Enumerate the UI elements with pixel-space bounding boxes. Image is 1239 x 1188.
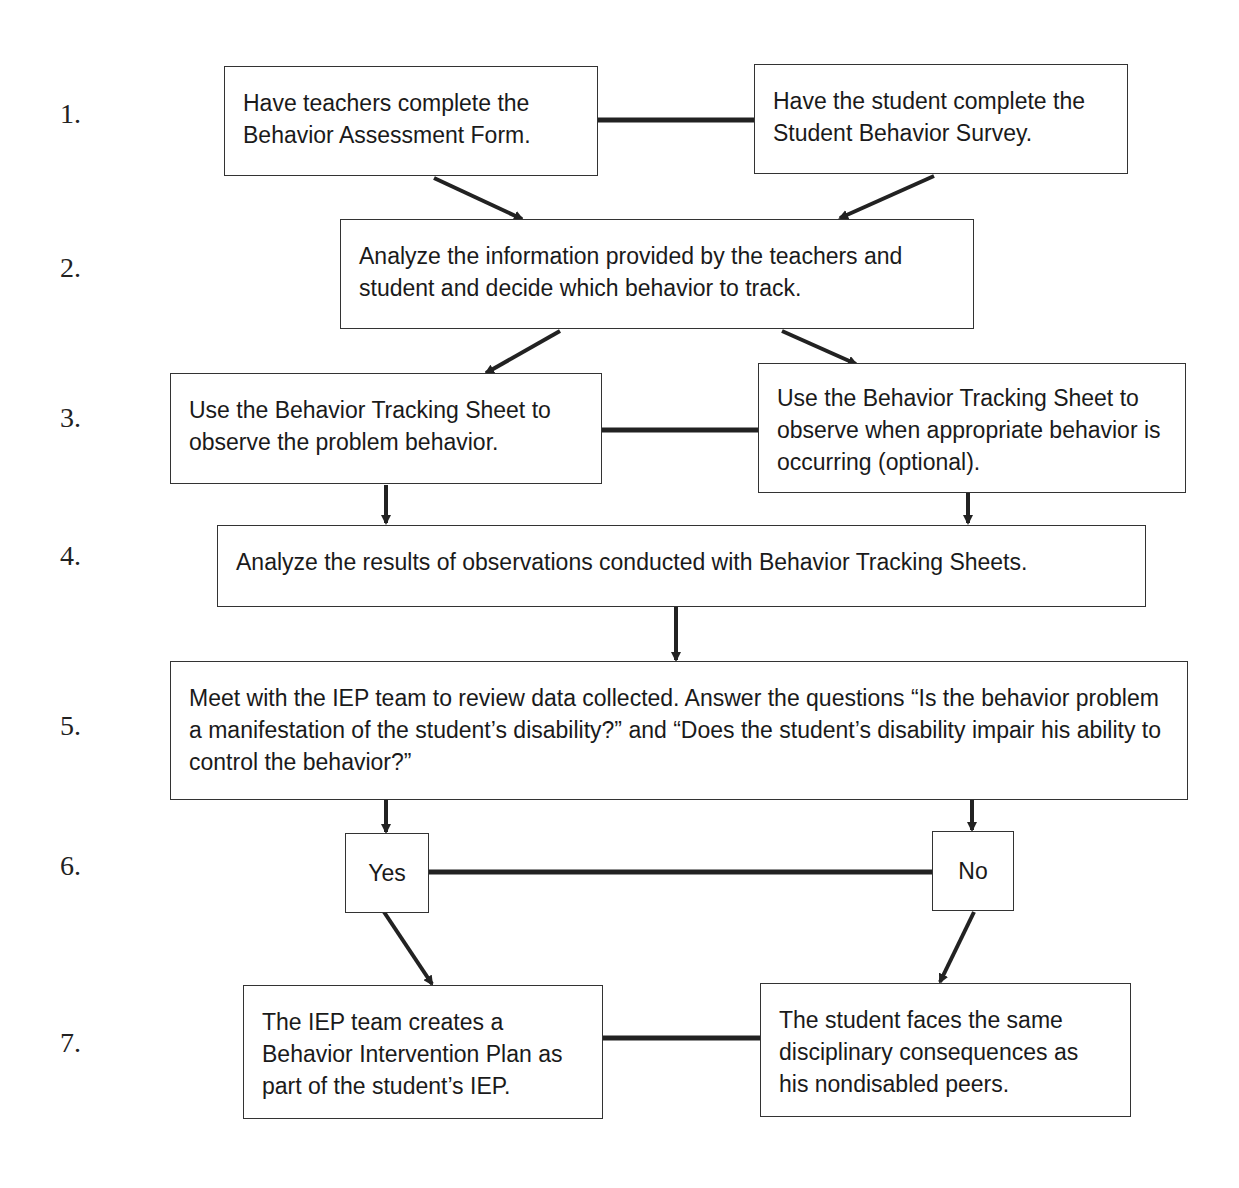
node-track-problem-behavior: Use the Behavior Tracking Sheet to obser… — [170, 373, 602, 484]
node-same-disciplinary-consequences: The student faces the same disciplinary … — [760, 983, 1131, 1117]
node-behavior-intervention-plan: The IEP team creates a Behavior Interven… — [243, 985, 603, 1119]
node-analyze-results: Analyze the results of observations cond… — [217, 525, 1146, 607]
node-iep-team-meeting: Meet with the IEP team to review data co… — [170, 661, 1188, 800]
node-teachers-assessment-form: Have teachers complete the Behavior Asse… — [224, 66, 598, 176]
node-decision-no: No — [932, 831, 1014, 911]
node-analyze-information: Analyze the information provided by the … — [340, 219, 974, 329]
node-decision-yes: Yes — [345, 833, 429, 913]
node-track-appropriate-behavior: Use the Behavior Tracking Sheet to obser… — [758, 363, 1186, 493]
node-student-behavior-survey: Have the student complete the Student Be… — [754, 64, 1128, 174]
